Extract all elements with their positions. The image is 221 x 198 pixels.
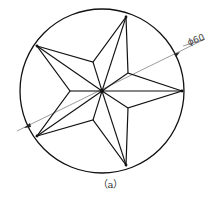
diameter-dimension: ϕ60 <box>17 32 206 131</box>
dimension-label: ϕ60 <box>186 32 206 47</box>
figure-caption: （a） <box>0 176 221 191</box>
star-in-circle-diagram: ϕ60 <box>0 0 221 198</box>
